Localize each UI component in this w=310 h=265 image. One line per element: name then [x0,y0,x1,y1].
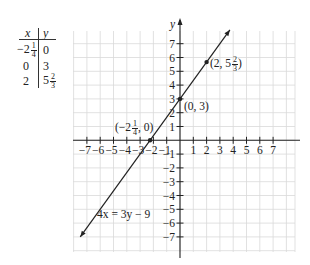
fraction: 14 [31,42,37,59]
y-tick-label: 5 [169,65,175,77]
y-tick-label: −7 [163,231,175,243]
point-label-x-intercept: (−214, 0) [115,120,153,137]
x-tick-label: −2 [145,144,157,156]
xy-table: x y −214 0 0 3 2 523 [0,0,70,95]
line-arrow-up-icon [224,30,229,36]
y-tick-label: −1 [163,148,175,160]
point-marker [178,97,182,101]
table-header-x: x [25,27,30,39]
x-tick-label: −5 [105,144,117,156]
x-tick-label: 1 [190,144,196,156]
x-tick-label: −4 [119,144,131,156]
fraction: 23 [50,73,56,90]
x-tick-label: 6 [257,144,263,156]
table-row-1-y: 0 [43,44,49,56]
point-marker [148,138,152,142]
y-tick-label: 1 [169,121,175,133]
x-tick-label: 5 [244,144,250,156]
y-axis-arrow-icon [178,18,183,25]
x-tick-label: 4 [230,144,236,156]
x-tick-label: 2 [204,144,210,156]
table-row-1-x: −214 [17,42,37,59]
point-label-2: (2, 523) [210,56,242,73]
equation-label: 4x = 3y − 9 [97,208,150,220]
x-tick-label: 3 [217,144,223,156]
y-tick-label: 3 [169,93,175,105]
x-tick-label: −7 [79,144,91,156]
table-row-3-y: 523 [43,73,56,90]
table-row-2-x: 0 [23,60,29,72]
x-tick-label: −6 [92,144,104,156]
point-label-y-intercept: (0, 3) [184,100,209,112]
y-tick-label: 7 [169,38,175,50]
y-tick-label: 4 [169,79,175,91]
y-tick-label: 6 [169,52,175,64]
y-tick-label: −2 [163,162,175,174]
x-tick-label: 7 [270,144,276,156]
table-header-y: y [43,27,48,39]
point-marker [204,60,208,64]
line-arrow-down-icon [80,231,85,237]
y-tick-label: −6 [163,217,175,229]
table-row-3-x: 2 [23,75,29,87]
y-tick-label: −3 [163,176,175,188]
y-axis-label: y [170,18,175,30]
y-tick-label: −4 [163,190,175,202]
table-row-2-y: 3 [43,60,49,72]
y-tick-label: −5 [163,203,175,215]
table-column-divider [38,28,39,88]
axes [73,18,300,258]
